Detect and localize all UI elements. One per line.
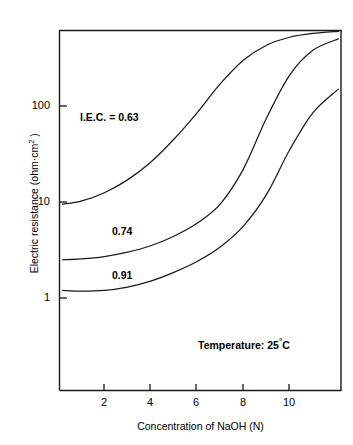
y-axis-title: Electric resistance (ohm·cm2 ) <box>26 108 41 298</box>
annotation-iec-0-74: 0.74 <box>112 226 132 237</box>
chart-figure: 100 10 1 2 4 6 8 10 Electric resistance … <box>0 0 353 445</box>
x-tick-label-6: 6 <box>182 397 210 408</box>
temperature-prefix: Temperature: 25 <box>198 339 279 351</box>
curve-iec-0-74 <box>63 39 339 260</box>
x-tick-label-4: 4 <box>136 397 164 408</box>
y-axis-title-tail: ) <box>28 133 40 139</box>
plot-canvas <box>0 0 353 445</box>
y-axis-title-superscript: 2 <box>27 140 36 144</box>
x-tick-label-8: 8 <box>229 397 257 408</box>
x-tick-label-2: 2 <box>90 397 118 408</box>
y-axis-title-main: Electric resistance (ohm·cm <box>28 144 40 274</box>
temperature-unit: C <box>282 339 290 351</box>
annotation-temperature: Temperature: 25°C <box>198 336 290 351</box>
annotation-iec-0-63: I.E.C. = 0.63 <box>80 112 139 123</box>
x-axis-title: Concentration of NaOH (N) <box>59 421 342 432</box>
x-axis-ticks <box>104 384 289 391</box>
annotation-iec-0-91: 0.91 <box>112 270 132 281</box>
y-axis-ticks <box>60 106 68 298</box>
data-curves <box>63 31 339 291</box>
x-tick-label-10: 10 <box>275 397 303 408</box>
